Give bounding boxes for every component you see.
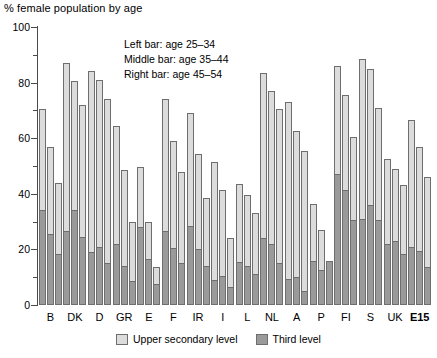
bar-segment-third-level <box>71 210 78 305</box>
bar-segment-third-level <box>178 263 185 305</box>
y-tick-label: 100 <box>4 21 30 33</box>
bar-segment-third-level <box>187 226 194 305</box>
bar-segment-third-level <box>47 234 54 305</box>
bar <box>178 172 185 305</box>
bar-segment-third-level <box>129 281 136 305</box>
bar <box>145 222 152 305</box>
bar <box>39 109 46 305</box>
bar-segment-third-level <box>104 263 111 305</box>
bar-segment-third-level <box>162 231 169 305</box>
bar-segment-third-level <box>121 266 128 305</box>
bar <box>47 147 54 305</box>
bar <box>260 73 267 305</box>
bar-group <box>161 27 186 305</box>
y-tick-label: 80 <box>4 77 30 89</box>
bar <box>334 66 341 305</box>
bar-group <box>334 27 359 305</box>
bar-group <box>284 27 309 305</box>
bar <box>88 71 95 305</box>
x-tick-label: I <box>210 308 235 326</box>
x-axis-labels: BDKDGREFIRILNLAPFISUKE15 <box>38 308 432 326</box>
bar <box>236 184 243 305</box>
bar <box>187 113 194 305</box>
bar <box>252 213 259 305</box>
y-tick-minor <box>33 166 37 167</box>
bar-segment-third-level <box>113 244 120 305</box>
bar <box>276 109 283 305</box>
bar-segment-third-level <box>350 220 357 305</box>
x-tick-label: GR <box>112 308 137 326</box>
bar <box>203 198 210 305</box>
bar <box>162 99 169 305</box>
bar-group <box>309 27 334 305</box>
bar <box>392 169 399 305</box>
bar-group <box>358 27 383 305</box>
y-tick-major <box>31 194 37 195</box>
bar <box>219 190 226 305</box>
x-tick-label: DK <box>63 308 88 326</box>
bar-segment-third-level <box>400 254 407 305</box>
x-tick-label: A <box>284 308 309 326</box>
legend-item: Third level <box>256 333 321 345</box>
bar-segment-third-level <box>359 219 366 305</box>
bar-segment-third-level <box>301 291 308 305</box>
legend-label: Third level <box>273 333 321 345</box>
legend-swatch <box>256 334 268 345</box>
bar-segment-third-level <box>203 266 210 305</box>
bar <box>424 177 431 305</box>
x-tick-label: D <box>87 308 112 326</box>
bar-group <box>87 27 112 305</box>
bar <box>137 167 144 305</box>
bar <box>384 159 391 305</box>
bar-group <box>260 27 285 305</box>
bar <box>244 195 251 305</box>
bar <box>400 185 407 305</box>
bar-segment-third-level <box>219 276 226 305</box>
y-tick-major <box>31 249 37 250</box>
bar <box>71 81 78 305</box>
x-tick-label: UK <box>383 308 408 326</box>
x-tick-label: P <box>309 308 334 326</box>
bar <box>96 80 103 305</box>
bar <box>326 261 333 305</box>
bar-segment-third-level <box>367 205 374 305</box>
bar-group <box>235 27 260 305</box>
bar <box>350 137 357 305</box>
y-tick-minor <box>33 222 37 223</box>
bar <box>129 222 136 305</box>
y-axis-labels: 020406080100 <box>0 0 30 358</box>
bar-segment-third-level <box>88 252 95 305</box>
bar-segment-third-level <box>244 266 251 305</box>
bar <box>104 99 111 305</box>
bar <box>342 95 349 305</box>
bar-segment-third-level <box>342 190 349 305</box>
legend-swatch <box>116 334 128 345</box>
bar <box>359 59 366 305</box>
bar-segment-third-level <box>211 280 218 305</box>
bar <box>195 154 202 306</box>
y-tick-label: 60 <box>4 132 30 144</box>
bar-segment-third-level <box>384 244 391 305</box>
bar <box>227 238 234 305</box>
bar <box>113 126 120 305</box>
y-tick-major <box>31 83 37 84</box>
legend-item: Upper secondary level <box>116 333 237 345</box>
plot-area <box>38 27 432 305</box>
bar <box>408 120 415 305</box>
bar-segment-third-level <box>318 270 325 305</box>
bar-segment-third-level <box>276 263 283 305</box>
y-tick-major <box>31 27 37 28</box>
bar-segment-third-level <box>252 274 259 305</box>
y-tick-major <box>31 305 37 306</box>
bar-group <box>112 27 137 305</box>
bar <box>55 183 62 305</box>
bar-segment-third-level <box>170 248 177 305</box>
y-tick-major <box>31 138 37 139</box>
bar-segment-third-level <box>268 244 275 305</box>
bar-group <box>210 27 235 305</box>
y-tick-minor <box>33 110 37 111</box>
bar-segment-third-level <box>145 259 152 305</box>
y-tick-label: 20 <box>4 243 30 255</box>
bar-group <box>63 27 88 305</box>
bar-segment-third-level <box>195 249 202 305</box>
